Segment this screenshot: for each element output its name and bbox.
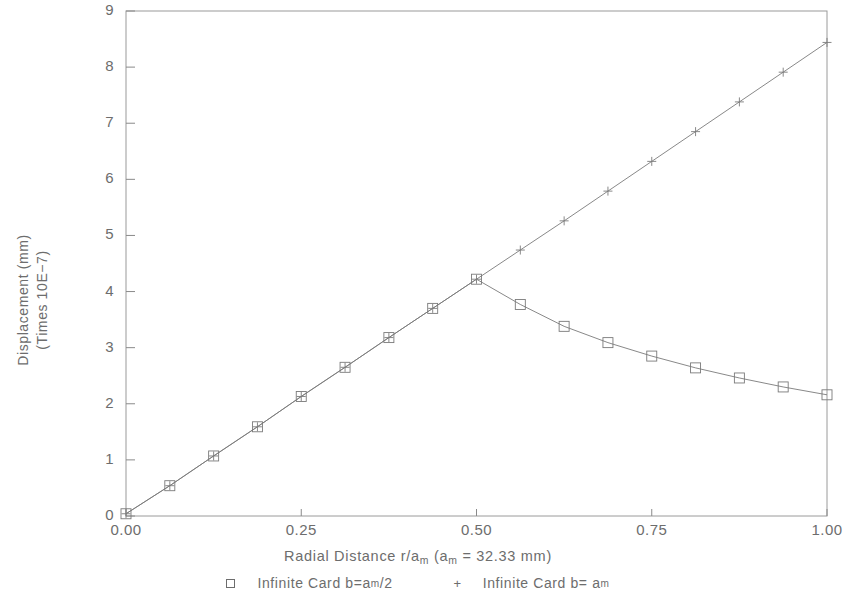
- y-tick-label: 3: [78, 338, 114, 355]
- data-series-group: [121, 38, 832, 519]
- y-tick-label: 8: [78, 57, 114, 74]
- legend-label-1-sub: m: [371, 578, 380, 589]
- x-axis-title-mid: (a: [429, 548, 448, 564]
- x-axis-ticks: [126, 509, 827, 516]
- y-tick-label: 7: [78, 113, 114, 130]
- x-axis-title-prefix: Radial Distance r/a: [284, 548, 420, 564]
- y-tick-label: 1: [78, 450, 114, 467]
- x-axis-title: Radial Distance r/am (am = 32.33 mm): [0, 548, 836, 566]
- x-axis-title-sub1: m: [420, 555, 429, 566]
- legend-label-2-sub: m: [601, 578, 610, 589]
- y-axis-ticks: [126, 11, 135, 516]
- legend-label-1-prefix: Infinite Card b=a: [257, 575, 370, 591]
- y-tick-label: 0: [78, 506, 114, 523]
- chart-legend: Infinite Card b=am/2 + Infinite Card b= …: [0, 575, 836, 591]
- legend-entry-plus[interactable]: + Infinite Card b= am: [449, 575, 610, 591]
- legend-label-1-suffix: /2: [380, 575, 393, 591]
- y-tick-label: 9: [78, 1, 114, 18]
- y-tick-label: 2: [78, 394, 114, 411]
- x-tick-label: 0.00: [86, 521, 166, 538]
- square-marker-icon: [226, 579, 235, 588]
- y-axis-title: Displacement (mm) (Times 10E−7): [15, 234, 50, 366]
- x-tick-label: 0.50: [437, 521, 517, 538]
- y-axis-title-line1: Displacement (mm): [15, 234, 31, 366]
- x-tick-label: 0.75: [612, 521, 692, 538]
- legend-entry-square[interactable]: Infinite Card b=am/2: [226, 575, 392, 591]
- y-tick-label: 6: [78, 169, 114, 186]
- x-axis-title-suffix: = 32.33 mm): [458, 548, 552, 564]
- plus-marker-icon: +: [449, 577, 467, 590]
- x-tick-label: 1.00: [787, 521, 847, 538]
- x-tick-label: 0.25: [261, 521, 341, 538]
- y-tick-label: 5: [78, 225, 114, 242]
- legend-label-2-prefix: Infinite Card b= a: [483, 575, 601, 591]
- y-tick-label: 4: [78, 282, 114, 299]
- plot-frame: [126, 11, 827, 516]
- y-axis-title-line2: (Times 10E−7): [34, 250, 50, 349]
- x-axis-title-sub2: m: [448, 555, 457, 566]
